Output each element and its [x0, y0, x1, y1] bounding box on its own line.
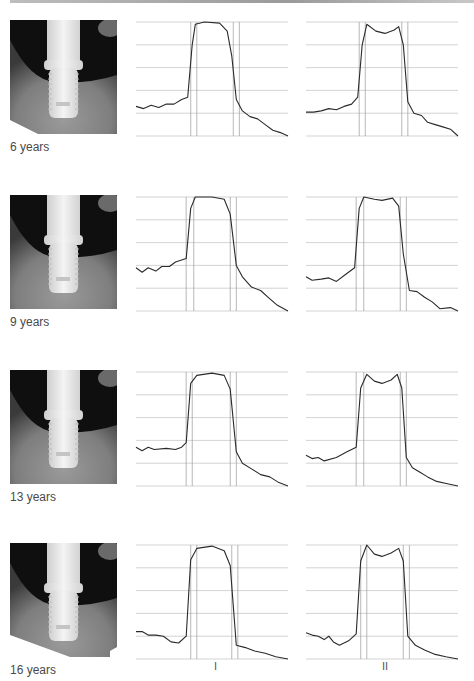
row-16-years: 16 years [0, 543, 474, 681]
xray-image [10, 20, 117, 134]
density-profile-II [304, 20, 460, 138]
density-profile-II [304, 195, 460, 313]
radiograph-svg [10, 195, 117, 309]
xray-image [10, 370, 117, 484]
radiograph-svg [10, 370, 117, 484]
density-profile-I [134, 195, 290, 313]
row-9-years: 9 years [0, 195, 474, 355]
year-label: 16 years [10, 663, 56, 677]
density-profile-I [134, 370, 290, 488]
xray-image [10, 543, 117, 657]
year-label: 13 years [10, 490, 56, 504]
row-13-years: 13 years [0, 370, 474, 530]
row-6-years: 6 years [0, 20, 474, 180]
page-top-rule [10, 0, 474, 3]
density-profile-I [134, 20, 290, 138]
density-profile-I [134, 543, 290, 661]
xray-image [10, 195, 117, 309]
year-label: 9 years [10, 315, 49, 329]
radiograph-svg [10, 543, 117, 657]
column-label-I: I [214, 660, 217, 672]
column-label-II: II [382, 660, 388, 672]
density-profile-II [304, 543, 460, 661]
year-label: 6 years [10, 140, 49, 154]
density-profile-II [304, 370, 460, 488]
radiograph-svg [10, 20, 117, 134]
